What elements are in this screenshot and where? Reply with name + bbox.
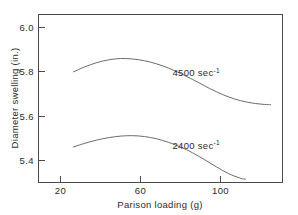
series-label-exponent-2400: -1 [213,139,219,146]
line-chart: 6.0 5.8 5.6 5.4 20 60 100 Parison loadin… [0,0,298,215]
x-tick-label-20: 20 [55,185,66,196]
svg-text:4500 sec-1: 4500 sec-1 [173,67,220,79]
x-tick-label-60: 60 [135,185,146,196]
y-tick-label-6-0: 6.0 [20,22,34,33]
series-annotation-4500: 4500 sec-1 [173,67,220,79]
x-tick-label-100: 100 [212,185,229,196]
series-label-text-4500: 4500 sec [173,67,214,78]
y-tick-label-5-6: 5.6 [20,111,34,122]
figure-container: 6.0 5.8 5.6 5.4 20 60 100 Parison loadin… [0,0,298,215]
svg-text:2400 sec-1: 2400 sec-1 [173,139,220,151]
series-label-text-2400: 2400 sec [173,140,214,151]
plot-frame [39,15,283,183]
y-axis-ticks [39,28,45,161]
y-tick-label-5-4: 5.4 [20,155,34,166]
series-annotation-2400: 2400 sec-1 [173,139,220,151]
y-axis-title: Diameter swelling (in.) [9,48,20,149]
y-tick-label-5-8: 5.8 [20,66,34,77]
y-axis-tick-labels: 6.0 5.8 5.6 5.4 [20,22,34,166]
series-label-exponent-4500: -1 [213,67,219,74]
x-axis-ticks [61,176,221,182]
series-line-4500 [74,58,271,104]
x-axis-title: Parison loading (g) [117,199,202,210]
x-axis-tick-labels: 20 60 100 [55,185,229,196]
